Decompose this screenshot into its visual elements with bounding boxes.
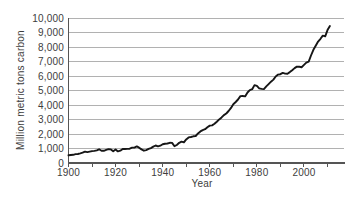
y-tick-label: 7,000 [38,56,64,67]
x-tick-label: 1920 [104,167,127,178]
y-tick-label: 4,000 [38,100,64,111]
x-tick-label: 1960 [198,167,221,178]
x-tick-label: 1900 [57,167,80,178]
y-tick-label: 1,000 [38,143,64,154]
carbon-emissions-chart: 01,0002,0003,0004,0005,0006,0007,0008,00… [0,0,360,200]
y-tick-label: 6,000 [38,71,64,82]
y-tick-label: 10,000 [32,13,64,24]
chart-plot-area: 01,0002,0003,0004,0005,0006,0007,0008,00… [0,0,360,200]
x-tick-label: 2000 [292,167,315,178]
y-tick-label: 8,000 [38,42,64,53]
y-tick-label: 9,000 [38,27,64,38]
x-tick-label: 1980 [245,167,268,178]
y-tick-label: 3,000 [38,114,64,125]
y-axis-title: Million metric tons carbon [15,30,26,150]
x-axis-title: Year [191,178,212,189]
y-tick-label: 2,000 [38,129,64,140]
y-tick-label: 5,000 [38,85,64,96]
x-tick-label: 1940 [151,167,174,178]
